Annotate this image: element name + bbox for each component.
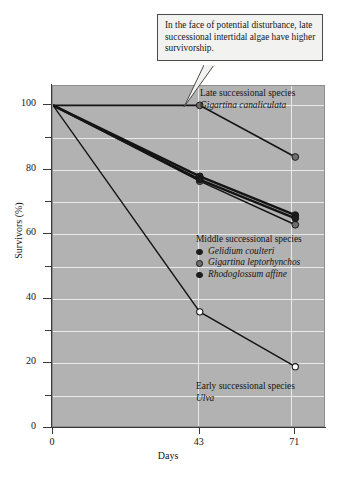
data-point <box>292 364 298 370</box>
x-tick-label: 43 <box>179 436 219 447</box>
callout-box: In the face of potential disturbance, la… <box>157 14 323 61</box>
marker-dot-icon <box>196 249 203 256</box>
series-gigartina-canaliculata <box>53 105 295 157</box>
x-tick-label: 71 <box>274 436 314 447</box>
x-tick <box>294 428 295 434</box>
series-line <box>53 105 295 157</box>
y-axis-line <box>51 84 52 428</box>
middle-heading: Middle successional species <box>196 234 340 246</box>
late-heading: Late successional species <box>200 88 338 100</box>
marker-dot-icon <box>196 260 203 267</box>
series-gelidium-coulteri <box>53 105 295 215</box>
series-line <box>53 105 295 215</box>
annotation-early-successional: Early successional species Ulva <box>196 381 336 404</box>
y-tick-label: 100 <box>2 97 36 108</box>
y-tick-minor <box>45 330 51 331</box>
y-tick-minor <box>45 266 51 267</box>
data-point <box>196 176 203 183</box>
annotation-late-successional: Late successional species Gigartina cana… <box>200 88 338 111</box>
data-point <box>197 309 203 315</box>
x-axis-title: Days <box>128 450 208 461</box>
data-point <box>292 221 299 228</box>
legend-item-gigartina-leptorhynchos: Gigartina leptorhynchos <box>196 257 340 269</box>
legend-label: Gigartina leptorhynchos <box>208 257 300 267</box>
y-tick-major <box>43 427 51 428</box>
x-axis-line <box>51 427 326 428</box>
x-tick <box>52 428 53 434</box>
early-species: Ulva <box>196 393 336 405</box>
y-tick-major <box>43 233 51 234</box>
y-tick-minor <box>45 395 51 396</box>
y-tick-label: 20 <box>2 355 36 366</box>
legend-item-gelidium-coulteri: Gelidium coulteri <box>196 246 340 258</box>
y-tick-major <box>43 362 51 363</box>
y-tick-major <box>43 298 51 299</box>
late-species: Gigartina canaliculata <box>200 100 338 112</box>
y-tick-major <box>43 104 51 105</box>
figure-root: In the face of potential disturbance, la… <box>0 0 340 477</box>
y-tick-minor <box>45 137 51 138</box>
legend-item-rhodoglossum-affine: Rhodoglossum affine <box>196 269 340 281</box>
y-tick-minor <box>45 201 51 202</box>
legend-label: Gelidium coulteri <box>208 246 274 256</box>
annotation-middle-successional: Middle successional species Gelidium cou… <box>196 234 340 280</box>
x-tick <box>199 428 200 434</box>
y-tick-major <box>43 169 51 170</box>
legend-label: Rhodoglossum affine <box>208 269 287 279</box>
early-heading: Early successional species <box>196 381 336 393</box>
x-tick-label: 0 <box>32 436 72 447</box>
data-point <box>292 215 299 222</box>
callout-pointer <box>180 65 216 107</box>
y-axis-title: Survivors (%) <box>13 171 24 291</box>
data-point <box>292 154 299 161</box>
y-tick-label: 0 <box>2 420 36 431</box>
marker-dot-icon <box>196 272 203 279</box>
y-tick-label: 40 <box>2 291 36 302</box>
callout-text: In the face of potential disturbance, la… <box>165 20 315 53</box>
